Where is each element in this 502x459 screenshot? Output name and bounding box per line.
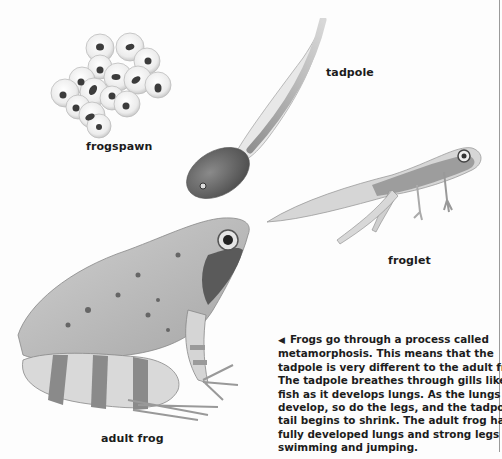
caption-line-1: metamorphosis. This means that the [278,347,500,360]
caption-line-2: tadpole is very different to the adult f… [278,361,500,374]
tadpole-label: tadpole [326,66,374,79]
caption-line-5: develop, so do the legs, and the tadpole… [278,401,500,414]
caption-line-7: fully developed lungs and strong legs fo… [278,428,500,441]
froglet-label: froglet [388,254,431,267]
caption-line-4: fish as it develops lungs. As the lungs [278,388,500,401]
caption-line-0: ◀Frogs go through a process called [278,333,500,347]
caption-line-text: Frogs go through a process called [290,333,489,345]
caption-line-8: swimming and jumping. [278,441,500,454]
adult-frog-label: adult frog [101,432,164,445]
frogspawn-illustration [50,30,180,140]
pointer-left-icon: ◀ [278,334,285,347]
frogspawn-label: frogspawn [86,140,152,153]
adult-frog-illustration [8,215,270,425]
caption-line-6: tail begins to shrink. The adult frog ha… [278,414,500,427]
page: frogspawn tadpole froglet [0,0,502,459]
froglet-illustration [262,140,487,250]
caption-text: ◀Frogs go through a process called metam… [278,333,500,455]
caption-line-3: The tadpole breathes through gills like … [278,374,500,387]
